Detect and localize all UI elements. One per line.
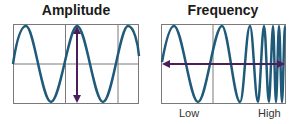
- frequency-panel: [162, 25, 286, 104]
- amplitude-panel: [13, 25, 139, 104]
- diagram-canvas: [0, 0, 299, 124]
- low-label: Low: [179, 107, 199, 119]
- arrow-down-icon: [73, 95, 81, 103]
- high-label: High: [258, 107, 281, 119]
